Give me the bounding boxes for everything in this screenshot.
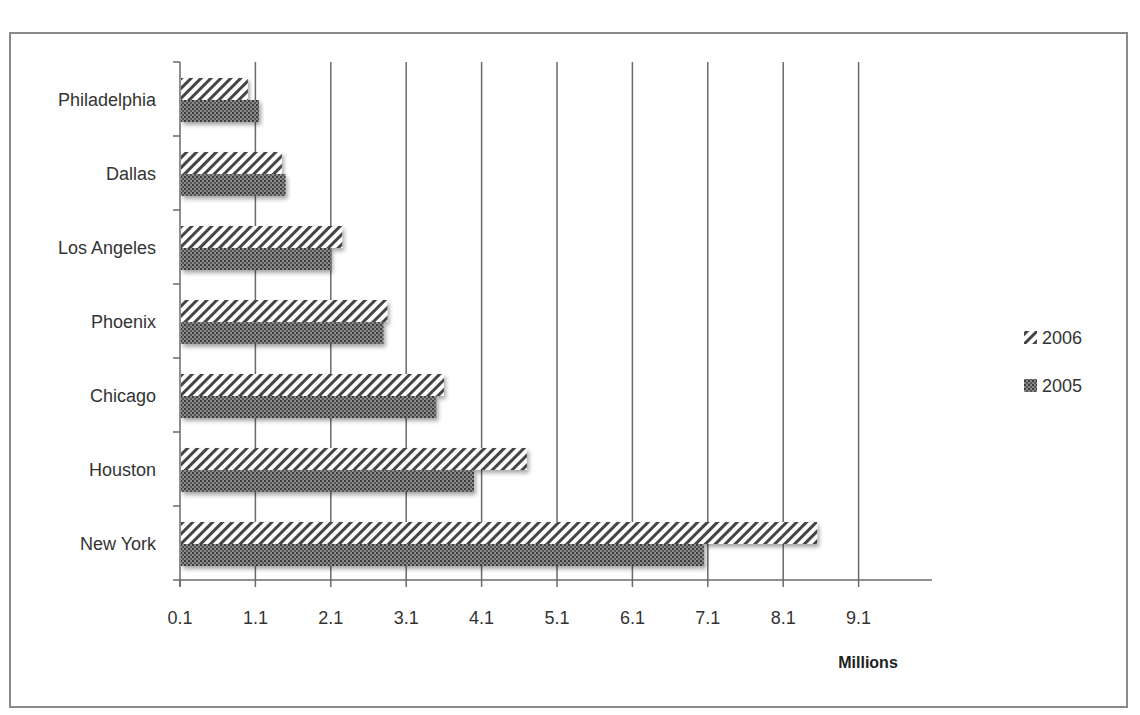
x-tick-label: 7.1 [695,608,720,628]
bar-2005 [181,174,286,196]
bar-2006 [181,152,282,174]
bar-2005 [181,100,259,122]
bar-2005 [181,322,384,344]
bars [181,78,817,566]
legend-label: 2005 [1042,376,1082,396]
category-label: Philadelphia [58,90,157,110]
bar-2005 [181,470,474,492]
x-tick-label: 8.1 [771,608,796,628]
x-tick-label: 5.1 [544,608,569,628]
bar-2006 [181,448,527,470]
bar-2006 [181,78,248,100]
x-tick-label: 6.1 [620,608,645,628]
category-label: Dallas [106,164,156,184]
x-axis-title: Millions [838,654,898,671]
bar-2005 [181,248,331,270]
x-tick-labels: 0.11.12.13.14.15.16.17.18.19.1 [167,608,871,628]
category-label: New York [80,534,157,554]
hatch-swatch-icon [1024,331,1037,344]
bar-chart: New YorkHoustonChicagoPhoenixLos Angeles… [0,0,1140,715]
bar-2006 [181,522,817,544]
category-label: Los Angeles [58,238,156,258]
legend-item-2005: 2005 [1024,376,1082,396]
bar-2005 [181,396,436,418]
category-label: Houston [89,460,156,480]
category-label: Phoenix [91,312,156,332]
bar-2006 [181,226,342,248]
x-tick-label: 2.1 [318,608,343,628]
bar-2006 [181,374,444,396]
bar-2005 [181,544,704,566]
x-tick-label: 4.1 [469,608,494,628]
legend: 20062005 [1024,328,1082,396]
x-tick-label: 9.1 [846,608,871,628]
bar-2006 [181,300,387,322]
dot-swatch-icon [1024,379,1037,392]
category-labels: New YorkHoustonChicagoPhoenixLos Angeles… [58,90,157,554]
legend-item-2006: 2006 [1024,328,1082,348]
x-tick-label: 3.1 [394,608,419,628]
category-label: Chicago [90,386,156,406]
legend-label: 2006 [1042,328,1082,348]
x-tick-label: 1.1 [243,608,268,628]
x-tick-label: 0.1 [167,608,192,628]
